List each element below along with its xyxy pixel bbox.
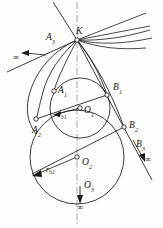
label-A1: A1: [58, 86, 67, 97]
label-rb1: rb1: [58, 111, 67, 119]
point-marker-O2: [75, 155, 79, 159]
involute-curve-right-b: [77, 38, 152, 43]
label-O1-subscript: 1: [91, 112, 94, 118]
label-B1-subscript: 1: [119, 89, 122, 95]
label-K: K: [76, 27, 82, 37]
label-rb2-subscript: b2: [49, 169, 55, 175]
label-A3-subscript: 3: [52, 39, 55, 45]
label-A3: A3: [46, 33, 55, 44]
infinity-arrow-left: [21, 50, 46, 56]
label-B2-subscript: 2: [135, 127, 138, 133]
point-marker-O1: [78, 106, 82, 110]
label-O2: O2: [82, 158, 92, 169]
label-B2: B2: [129, 121, 138, 132]
label-B3-subscript: 3: [142, 146, 145, 152]
label-O3: O3: [84, 181, 94, 192]
geometry-diagram-canvas: K A3 A1 A2 B1 B2 B3 O1 O2 O3 rb1 rb2 ∞ ∞…: [0, 0, 163, 228]
label-rb2: rb2: [46, 166, 55, 174]
label-rb1-subscript: b1: [61, 114, 67, 120]
infinity-symbol-right: ∞: [145, 155, 151, 164]
label-O1: O1: [84, 106, 94, 117]
point-marker-B2: [122, 125, 126, 129]
label-A1-subscript: 1: [64, 92, 67, 98]
chord-a2-b1: [36, 95, 107, 119]
point-marker-A1: [52, 89, 56, 93]
label-O2-subscript: 2: [89, 164, 92, 170]
point-marker-A2: [34, 117, 38, 121]
ray-k-right-1: [77, 13, 146, 40]
line-upper-left-through-k: [53, 2, 77, 40]
infinity-symbol-left: ∞: [13, 53, 19, 62]
label-A2: A2: [32, 126, 41, 137]
involute-curve-right-a: [77, 30, 150, 40]
label-O3-subscript: 3: [91, 187, 94, 193]
label-B1: B1: [113, 83, 122, 94]
involute-curve-a1: [54, 40, 77, 91]
label-A2-subscript: 2: [38, 132, 41, 138]
point-marker-K: [75, 38, 79, 42]
infinity-symbol-bottom: ∞: [77, 203, 83, 212]
point-marker-B1: [105, 93, 109, 97]
label-B3: B3: [136, 140, 145, 151]
